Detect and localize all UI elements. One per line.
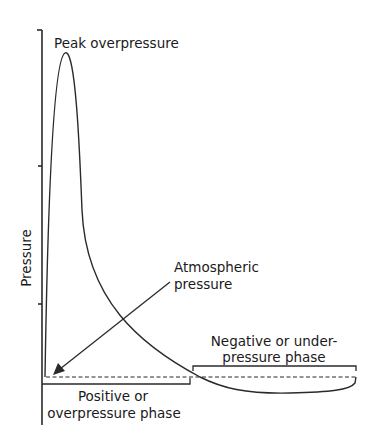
y-axis-label: Pressure [18, 229, 34, 287]
negative-phase-label-line2: pressure phase [222, 349, 325, 365]
atmospheric-label-line1: Atmospheric [174, 259, 259, 275]
atmospheric-label-line2: pressure [174, 276, 232, 292]
positive-phase-label-line1: Positive or [78, 388, 149, 404]
negative-phase-label-line1: Negative or under- [211, 333, 338, 349]
negative-phase-bracket [193, 366, 356, 371]
blast-pressure-diagram: Pressure Peak overpressure Atmospheric p… [0, 0, 376, 445]
peak-overpressure-label: Peak overpressure [54, 35, 179, 51]
atmospheric-arrow [53, 282, 170, 375]
positive-phase-label-line2: overpressure phase [47, 405, 180, 421]
arrowhead-icon [53, 363, 65, 375]
positive-phase-bracket [42, 378, 190, 384]
y-axis [37, 30, 42, 425]
